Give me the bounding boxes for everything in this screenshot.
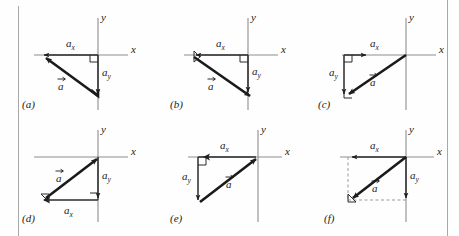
panel-a: y x ax ay a (a)	[22, 10, 152, 115]
vector-a-label-c: a	[370, 76, 376, 88]
vector-a-line-a	[46, 58, 98, 96]
right-angle-marker-e	[198, 157, 206, 165]
panel-tag-b: (b)	[170, 98, 183, 110]
x-axis-label-e: x	[284, 145, 290, 157]
vector-a-line-b	[194, 57, 250, 96]
top-partial-text	[22, 0, 442, 5]
component-x-label-e: ax	[220, 139, 230, 154]
x-axis-label-f: x	[436, 145, 442, 157]
x-axis-label-d: x	[130, 145, 136, 157]
right-angle-marker-d	[90, 193, 98, 200]
vector-a-line-c	[349, 55, 406, 94]
y-axis-label-f: y	[408, 123, 414, 135]
component-x-label-f: ax	[370, 139, 380, 154]
panel-e: y x ax ay a (e)	[170, 124, 300, 229]
figure-root: y x ax ay a (a)	[0, 0, 459, 236]
vector-a-label-f: a	[372, 182, 378, 194]
component-x-label-b: ax	[216, 37, 226, 52]
component-x-label-d: ax	[64, 204, 74, 219]
vector-a-label-a: a	[58, 80, 64, 92]
panel-tag-f: (f)	[324, 212, 334, 224]
x-axis-label-c: x	[438, 43, 444, 55]
x-axis-label-b: x	[280, 43, 286, 55]
component-x-label-a: ax	[66, 37, 76, 52]
y-axis-label-c: y	[408, 11, 414, 23]
y-axis-label-b: y	[250, 11, 256, 23]
panel-tag-d: (d)	[22, 212, 35, 224]
panel-c: y x ax ay a (c)	[318, 10, 448, 115]
vector-a-line-f	[353, 157, 406, 198]
y-axis-label-e: y	[260, 123, 266, 135]
right-angle-marker-a	[90, 55, 98, 62]
panel-d: y x ay ax a (d)	[22, 124, 152, 229]
panel-f: y x ax ay a (f)	[318, 124, 448, 229]
component-y-label-a: ay	[102, 66, 112, 81]
component-y-label-c: ay	[329, 66, 339, 81]
y-axis-label-d: y	[100, 123, 106, 135]
vector-a-line-d	[46, 159, 97, 198]
y-axis-label-a: y	[100, 11, 106, 23]
panel-tag-c: (c)	[318, 98, 330, 110]
component-y-label-f: ay	[410, 169, 420, 184]
right-angle-marker-c	[344, 55, 352, 62]
component-y-label-d: ay	[102, 169, 112, 184]
x-axis-label-a: x	[130, 43, 136, 55]
vector-a-label-d: a	[56, 172, 62, 184]
panel-b: y x ax ay a (b)	[170, 10, 300, 115]
component-x-label-c: ax	[370, 37, 380, 52]
panel-tag-e: (e)	[170, 212, 182, 224]
component-y-label-e: ay	[182, 170, 192, 185]
left-margin-rule	[18, 6, 19, 236]
panel-tag-a: (a)	[22, 98, 35, 110]
vector-a-label-e: a	[226, 178, 232, 190]
right-angle-marker-b	[240, 55, 248, 62]
vector-a-label-b: a	[208, 80, 214, 92]
component-y-label-b: ay	[252, 65, 262, 80]
